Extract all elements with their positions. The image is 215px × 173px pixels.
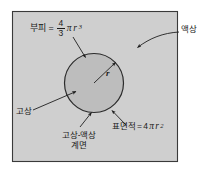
pi-symbol: π — [149, 122, 154, 132]
radius-variable: r — [155, 122, 159, 132]
volume-fraction: 4 3 — [57, 19, 65, 38]
radius-label: r — [106, 69, 109, 78]
volume-equals: = — [48, 24, 55, 33]
interface-label-line1: 고상-액상 — [62, 130, 96, 140]
interface-label-line2: 계면 — [71, 140, 87, 150]
surface-coefficient: 4 — [143, 122, 148, 131]
solid-phase-label: 고상 — [16, 107, 32, 116]
surface-exponent: 2 — [160, 123, 163, 130]
radius-variable: r — [73, 24, 77, 34]
diagram-figure: 부피 = 4 3 π r 3 r 액상 고상 고상-액상 계면 표면적 = 4 … — [0, 0, 215, 173]
volume-denominator: 3 — [57, 29, 64, 38]
pi-symbol: π — [67, 24, 72, 34]
volume-term: 부피 — [30, 24, 46, 33]
surface-term: 표면적 — [112, 122, 135, 131]
liquid-phase-label: 액상 — [181, 25, 197, 34]
interface-label: 고상-액상 계면 — [52, 130, 106, 151]
volume-formula: 부피 = 4 3 π r 3 — [30, 19, 82, 38]
volume-exponent: 3 — [79, 24, 82, 31]
surface-equals: = — [137, 122, 142, 131]
surface-area-formula: 표면적 = 4 π r 2 — [112, 122, 163, 132]
volume-numerator: 4 — [57, 19, 64, 28]
